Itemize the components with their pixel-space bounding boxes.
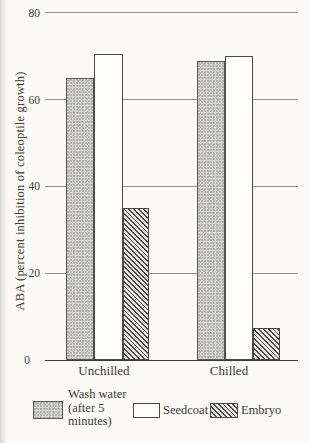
legend-label-seedcoat: Seedcoat [163,403,208,418]
legend-label-wash-water-line1: Wash water [68,388,126,402]
legend-label-wash-water-line2: (after 5 [68,402,126,416]
scan-edge-shading [0,0,7,443]
y-tick-label-40: 40 [0,179,40,193]
y-tick-label-80: 80 [0,6,40,20]
legend-label-wash-water: Wash water (after 5 minutes) [68,388,126,429]
bar-unchilled-seedcoat [94,54,123,360]
bar-unchilled-embryo [123,208,149,360]
legend-swatch-seedcoat [133,403,160,418]
category-label-unchilled: Unchilled [44,363,164,379]
y-tick-label-20: 20 [0,266,40,280]
bar-chilled-seedcoat [225,56,253,360]
category-label-chilled: Chilled [169,363,289,379]
bar-unchilled-wash-water [66,78,94,360]
y-tick-label-60: 60 [0,93,40,107]
legend-label-embryo: Embryo [241,403,281,418]
gridline-80 [45,12,298,13]
bar-chart-figure: ABA (percent inhibition of coleoptile gr… [0,0,309,443]
legend-swatch-wash-water [33,401,63,419]
y-tick-label-0: 0 [0,353,30,367]
legend-swatch-embryo [210,403,238,418]
bar-chilled-embryo [253,328,280,361]
bar-chilled-wash-water [197,61,225,361]
legend-label-wash-water-line3: minutes) [68,415,126,429]
